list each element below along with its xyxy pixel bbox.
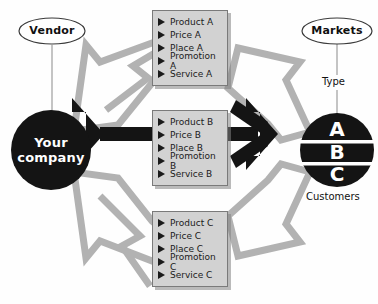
list-item: Promotion B [158,154,221,167]
triangle-bullet-icon [158,18,165,26]
triangle-bullet-icon [158,258,165,266]
list-item-label: Price B [170,130,201,140]
list-item: Service B [158,167,221,180]
triangle-bullet-icon [158,70,165,78]
company-label-line1: Your [8,136,94,150]
list-item-label: Promotion B [170,151,221,171]
list-item: Service C [158,268,221,281]
triangle-bullet-icon [158,245,165,253]
segment-letter-a: A [302,119,372,139]
list-item-label: Price C [170,231,201,241]
triangle-bullet-icon [158,144,165,152]
triangle-bullet-icon [158,219,165,227]
type-label: Type [322,76,345,87]
triangle-bullet-icon [158,271,165,279]
list-item-label: Product A [170,17,213,27]
list-item: Price C [158,229,221,242]
gray-arrow-c-to-segments [228,164,310,256]
triangle-bullet-icon [158,118,165,126]
list-item-label: Service C [170,270,212,280]
marketing-mix-box-c: Product CPrice CPlace CPromotion CServic… [152,211,228,287]
diagram-canvas: Vendor Markets Your company Type A B C C… [0,0,378,304]
list-item: Promotion C [158,255,221,268]
vendor-label: Vendor [29,24,75,37]
list-item: Price A [158,28,221,41]
marketing-mix-box-a: Product APrice APlace APromotion AServic… [152,10,228,86]
list-item-label: Promotion C [170,252,221,272]
segment-letter-c: C [302,164,372,184]
list-item-label: Product B [170,117,213,127]
triangle-bullet-icon [158,131,165,139]
list-item-label: Service A [170,69,212,79]
black-arrow-shaft-left [100,127,152,141]
triangle-bullet-icon [158,57,165,65]
list-item: Product A [158,15,221,28]
list-item: Price B [158,128,221,141]
list-item: Product C [158,216,221,229]
list-item: Product B [158,115,221,128]
triangle-bullet-icon [158,232,165,240]
triangle-bullet-icon [158,31,165,39]
triangle-bullet-icon [158,157,165,165]
customers-label: Customers [306,191,360,202]
list-item: Promotion A [158,54,221,67]
list-item-label: Promotion A [170,51,221,71]
triangle-bullet-icon [158,170,165,178]
company-label-line2: company [8,151,94,165]
markets-label: Markets [309,24,365,37]
black-arrow-shaft-right [228,127,258,141]
segment-letter-b: B [302,142,372,162]
list-item-label: Service B [170,169,212,179]
list-item-label: Product C [170,218,213,228]
triangle-bullet-icon [158,44,165,52]
list-item-label: Price A [170,30,201,40]
list-item: Service A [158,67,221,80]
marketing-mix-box-b: Product BPrice BPlace BPromotion BServic… [152,110,228,186]
